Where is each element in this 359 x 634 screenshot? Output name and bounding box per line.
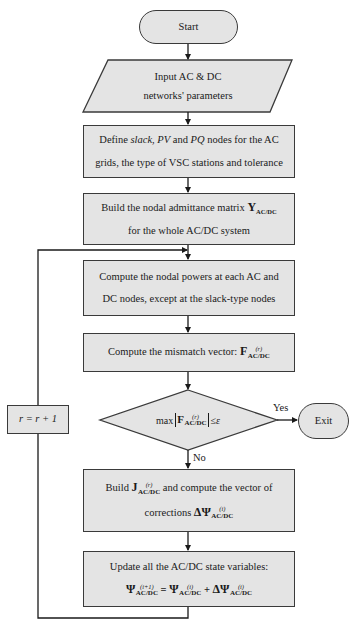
define-line2: grids, the type of VSC stations and tole… xyxy=(95,157,283,169)
admittance-line2: for the whole AC/DC system xyxy=(128,225,250,237)
jacobian-box: Build J(r)AC/DC and compute the vector o… xyxy=(83,469,295,532)
mismatch-vector-box: Compute the mismatch vector: F(r)AC/DC xyxy=(83,333,295,372)
loop-label: r = r + 1 xyxy=(19,413,57,425)
nodal-powers-box: Compute the nodal powers at each AC and … xyxy=(83,260,295,316)
update-equation: Ψ(i+1)AC/DC = Ψ(i)AC/DC + ΔΨ(i)AC/DC xyxy=(126,583,252,597)
admittance-line1: Build the nodal admittance matrix YAC/DC xyxy=(101,201,276,215)
yes-label: Yes xyxy=(273,402,288,413)
no-label: No xyxy=(193,452,206,463)
mismatch-line: Compute the mismatch vector: F(r)AC/DC xyxy=(108,345,270,359)
update-line1: Update all the AC/DC state variables: xyxy=(110,561,268,573)
exit-label: Exit xyxy=(315,415,333,427)
admittance-matrix-box: Build the nodal admittance matrix YAC/DC… xyxy=(83,193,295,245)
update-box: Update all the AC/DC state variables: Ψ(… xyxy=(83,551,295,607)
decision-text: max F(r)AC/DC ≤ε xyxy=(120,405,256,435)
exit-terminal: Exit xyxy=(298,403,349,439)
input-text: Input AC & DC networks' parameters xyxy=(95,62,281,110)
start-label: Start xyxy=(179,21,199,33)
start-terminal: Start xyxy=(139,10,238,44)
powers-line2: DC nodes, except at the slack-type nodes xyxy=(103,293,276,305)
loop-increment-box: r = r + 1 xyxy=(7,405,69,434)
powers-line1: Compute the nodal powers at each AC and xyxy=(99,271,278,283)
input-line1: Input AC & DC xyxy=(155,71,222,82)
define-nodes-box: Define slack, PV and PQ nodes for the AC… xyxy=(83,125,295,178)
input-line2: networks' parameters xyxy=(143,90,232,101)
jacobian-line1: Build J(r)AC/DC and compute the vector o… xyxy=(106,481,273,495)
define-line1: Define slack, PV and PQ nodes for the AC xyxy=(99,134,278,146)
jacobian-line2: corrections ΔΨ(i)AC/DC xyxy=(145,506,234,520)
